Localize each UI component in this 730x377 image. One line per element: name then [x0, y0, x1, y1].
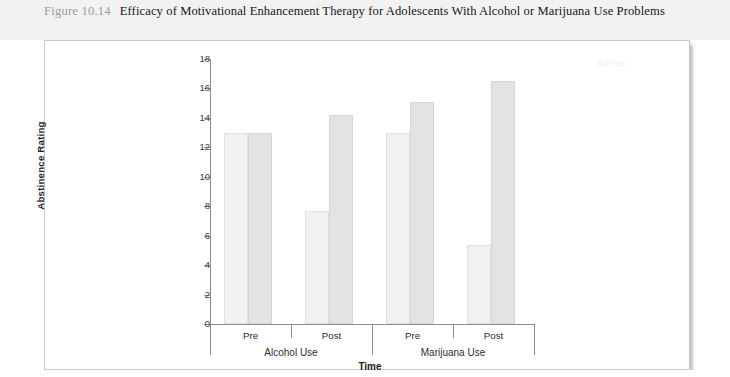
y-tick-label-wrap: 14 — [170, 113, 210, 114]
y-tick-label-wrap: 0 — [170, 319, 210, 320]
y-tick-label-wrap: 18 — [170, 54, 210, 55]
bar-marijuana-use-post-light — [467, 245, 491, 325]
bar-alcohol-use-pre-dark — [248, 133, 272, 324]
y-tick-label: 14 — [184, 113, 210, 122]
x-category-label-pre-2: Pre — [372, 330, 453, 341]
x-category-label-post-3: Post — [453, 330, 534, 341]
y-tick-label-wrap: 8 — [170, 201, 210, 202]
y-tick-label: 4 — [184, 260, 210, 269]
y-tick-label: 6 — [184, 231, 210, 240]
y-tick-label: 10 — [184, 172, 210, 181]
bar-marijuana-use-pre-light — [386, 133, 410, 324]
x-group-label-alcohol-use: Alcohol Use — [210, 347, 372, 358]
bar-marijuana-use-pre-dark — [410, 102, 434, 324]
y-tick-label: 16 — [184, 83, 210, 92]
category-separator — [534, 324, 535, 355]
bar-chart: Abstinence Rating 024681012141618 PrePos… — [0, 0, 730, 377]
bar-alcohol-use-post-dark — [329, 115, 353, 324]
y-tick-label-wrap: 6 — [170, 231, 210, 232]
y-tick-label: 0 — [184, 319, 210, 328]
y-tick-label-wrap: 4 — [170, 260, 210, 261]
y-tick-label-wrap: 16 — [170, 83, 210, 84]
x-category-label-pre-0: Pre — [210, 330, 291, 341]
y-tick-label-wrap: 2 — [170, 290, 210, 291]
x-category-label-post-1: Post — [291, 330, 372, 341]
y-tick-label: 8 — [184, 201, 210, 210]
y-tick-label-wrap: 10 — [170, 172, 210, 173]
y-tick-label: 18 — [184, 54, 210, 63]
y-axis-line — [210, 59, 211, 325]
y-axis-title: Abstinence Rating — [35, 96, 46, 236]
bar-alcohol-use-post-light — [305, 211, 329, 324]
x-group-label-marijuana-use: Marijuana Use — [372, 347, 534, 358]
y-tick-label: 2 — [184, 290, 210, 299]
y-tick-label-wrap: 12 — [170, 142, 210, 143]
bar-alcohol-use-pre-light — [224, 133, 248, 324]
y-tick-label: 12 — [184, 142, 210, 151]
bar-marijuana-use-post-dark — [491, 81, 515, 324]
x-axis-title: Time — [300, 361, 440, 372]
